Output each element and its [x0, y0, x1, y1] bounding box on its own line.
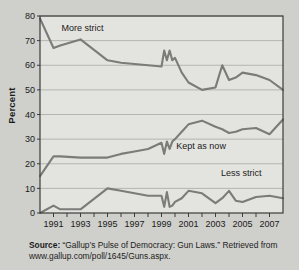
svg-text:1991: 1991 — [43, 219, 63, 229]
svg-text:70: 70 — [25, 36, 35, 46]
svg-text:40: 40 — [25, 110, 35, 120]
svg-text:2003: 2003 — [205, 219, 225, 229]
svg-text:1993: 1993 — [70, 219, 90, 229]
y-axis-label: Percent — [6, 76, 17, 136]
svg-text:30: 30 — [25, 134, 35, 144]
svg-text:10: 10 — [25, 184, 35, 194]
figure: 01020304050607080 1991199319951997199920… — [0, 0, 299, 270]
svg-text:0: 0 — [30, 208, 35, 218]
svg-text:80: 80 — [25, 11, 35, 21]
svg-text:More strict: More strict — [62, 23, 105, 33]
line-chart: 01020304050607080 1991199319951997199920… — [0, 0, 299, 232]
svg-text:50: 50 — [25, 85, 35, 95]
chart-svg: 01020304050607080 1991199319951997199920… — [0, 0, 299, 232]
svg-text:1997: 1997 — [124, 219, 144, 229]
svg-text:2001: 2001 — [178, 219, 198, 229]
svg-text:1995: 1995 — [97, 219, 117, 229]
svg-text:2005: 2005 — [232, 219, 252, 229]
svg-text:Less strict: Less strict — [221, 168, 262, 178]
svg-text:20: 20 — [25, 159, 35, 169]
source-caption: Source: “Gallup’s Pulse of Democracy: Gu… — [29, 240, 284, 262]
svg-text:1999: 1999 — [151, 219, 171, 229]
svg-text:60: 60 — [25, 60, 35, 70]
x-tick-labels: 199119931995199719992001200320052007 — [43, 219, 279, 229]
source-label: Source: — [29, 240, 60, 250]
svg-text:Kept as now: Kept as now — [176, 141, 226, 151]
source-text: “Gallup’s Pulse of Democracy: Gun Laws.”… — [29, 240, 277, 261]
svg-text:2007: 2007 — [259, 219, 279, 229]
